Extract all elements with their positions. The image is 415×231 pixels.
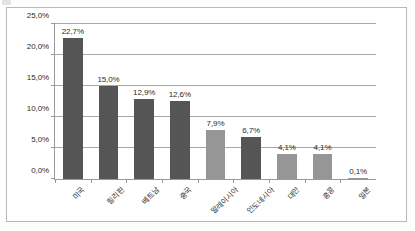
x-axis-label-필리핀: 필리핀 — [103, 184, 125, 206]
x-label-slot: 미국 — [54, 181, 90, 231]
bar-중국[interactable]: 12,6% — [170, 101, 190, 179]
bar-slot: 4,1% — [305, 24, 341, 179]
x-axis-labels: 미국필리핀베트남중국말레이시아인도네시아대만홍콩일본 — [54, 181, 376, 231]
x-axis-label-미국: 미국 — [69, 184, 86, 201]
chart-outer-frame: 0,0%5,0%10,0%15,0%20,0%25,0% 22,7%15,0%1… — [6, 7, 407, 222]
x-label-slot: 인도네시아 — [233, 181, 269, 231]
bar-필리핀[interactable]: 15,0% — [99, 86, 119, 179]
bar-value-label: 4,1% — [278, 143, 296, 152]
x-label-slot: 베트남 — [126, 181, 162, 231]
bar-slot: 0,1% — [340, 24, 376, 179]
bar-slot: 22,7% — [55, 24, 91, 179]
scan-artifact — [2, 0, 11, 5]
bar-미국[interactable]: 22,7% — [63, 38, 83, 179]
bar-value-label: 22,7% — [62, 27, 84, 36]
bar-value-label: 12,9% — [133, 88, 155, 97]
bar-대만[interactable]: 4,1% — [277, 154, 297, 179]
bar-인도네시아[interactable]: 6,7% — [241, 137, 261, 179]
bar-일본[interactable]: 0,1% — [348, 178, 368, 179]
bars-layer: 22,7%15,0%12,9%12,6%7,9%6,7%4,1%4,1%0,1% — [55, 24, 376, 179]
bar-value-label: 15,0% — [97, 75, 119, 84]
y-axis-tick-label: 20,0% — [27, 42, 49, 51]
bar-홍콩[interactable]: 4,1% — [313, 154, 333, 179]
bar-베트남[interactable]: 12,9% — [134, 99, 154, 179]
x-label-slot: 대만 — [269, 181, 305, 231]
bar-value-label: 6,7% — [242, 126, 260, 135]
y-axis-tick-label: 0,0% — [31, 166, 49, 175]
x-label-slot: 중국 — [161, 181, 197, 231]
bar-slot: 6,7% — [233, 24, 269, 179]
x-label-slot: 필리핀 — [90, 181, 126, 231]
x-label-slot: 일본 — [340, 181, 376, 231]
x-axis-label-대만: 대만 — [284, 184, 301, 201]
x-axis-label-중국: 중국 — [176, 184, 193, 201]
x-axis-label-홍콩: 홍콩 — [320, 184, 337, 201]
y-axis-tick-label: 25,0% — [27, 11, 49, 20]
x-axis-label-일본: 일본 — [355, 184, 372, 201]
bar-value-label: 7,9% — [207, 119, 225, 128]
bar-말레이시아[interactable]: 7,9% — [206, 130, 226, 179]
bar-slot: 4,1% — [269, 24, 305, 179]
bar-slot: 12,9% — [126, 24, 162, 179]
bar-value-label: 12,6% — [169, 90, 191, 99]
bar-slot: 12,6% — [162, 24, 198, 179]
bar-value-label: 0,1% — [349, 167, 367, 176]
bar-chart-figure: 0,0%5,0%10,0%15,0%20,0%25,0% 22,7%15,0%1… — [0, 0, 415, 231]
bar-value-label: 4,1% — [314, 143, 332, 152]
x-axis-label-베트남: 베트남 — [139, 184, 161, 206]
y-axis-tick-label: 10,0% — [27, 104, 49, 113]
y-axis-tick-label: 5,0% — [31, 135, 49, 144]
plot-area: 0,0%5,0%10,0%15,0%20,0%25,0% 22,7%15,0%1… — [54, 24, 376, 180]
bar-slot: 15,0% — [91, 24, 127, 179]
x-label-slot: 홍콩 — [304, 181, 340, 231]
y-axis-tick-label: 15,0% — [27, 73, 49, 82]
x-label-slot: 말레이시아 — [197, 181, 233, 231]
bar-slot: 7,9% — [198, 24, 234, 179]
